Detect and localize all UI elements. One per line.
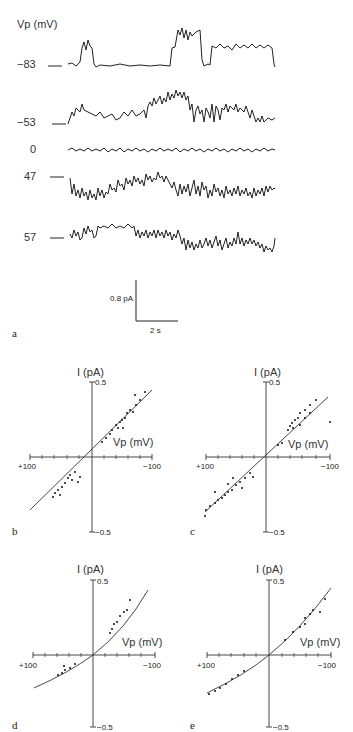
panel-c-ybottom: −0.5 <box>269 528 285 537</box>
panel-d-xleft: +100 <box>19 661 37 670</box>
panel-d-letter: d <box>12 719 18 731</box>
panel-b-ylabel: I (pA) <box>77 366 104 378</box>
panel-b-xleft: +100 <box>18 462 36 471</box>
panel-d-xright: −100 <box>143 661 161 670</box>
panel-b-ytop: 0.5 <box>95 378 106 387</box>
panel-c-xlabel: Vp (mV) <box>288 438 328 450</box>
panel-e-xright: −100 <box>318 661 336 670</box>
panel-c-ytop: 0.5 <box>269 378 280 387</box>
panel-d-xlabel: Vp (mV) <box>122 636 162 648</box>
panel-e-ylabel: I (pA) <box>256 563 283 575</box>
panel-d-ybottom: −0.5 <box>97 723 113 732</box>
panel-c-xleft: +100 <box>196 462 214 471</box>
panel-b-xlabel: Vp (mV) <box>113 436 153 448</box>
panel-e-letter: e <box>190 719 195 731</box>
panel-e-xleft: +100 <box>197 661 215 670</box>
panel-e-xlabel: Vp (mV) <box>300 636 340 648</box>
panel-b-ybottom: −0.5 <box>95 528 111 537</box>
panel-c-letter: c <box>190 525 195 537</box>
panel-e-ybottom: −0.5 <box>273 723 289 732</box>
panel-d-ylabel: I (pA) <box>77 563 104 575</box>
panel-e-ytop: 0.5 <box>273 577 284 586</box>
panel-b-letter: b <box>12 525 18 537</box>
iv-plots <box>0 0 353 732</box>
panel-d-ytop: 0.5 <box>97 577 108 586</box>
panel-c-xright: −100 <box>321 462 339 471</box>
panel-b-xright: −100 <box>143 462 161 471</box>
panel-c-ylabel: I (pA) <box>254 366 281 378</box>
